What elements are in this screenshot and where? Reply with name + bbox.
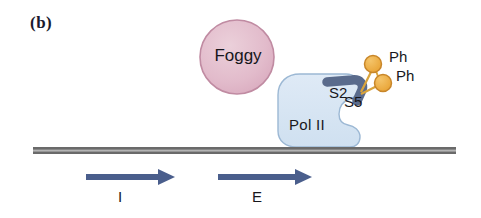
phosphate-label-upper: Ph [389,48,407,65]
elongation-arrow [218,169,312,185]
initiation-arrow [86,169,175,185]
diagram-canvas [0,0,481,218]
phosphate-circle-s5 [375,75,392,92]
foggy-label: Foggy [207,46,269,66]
elongation-arrow-head [295,169,312,185]
phosphate-label-lower: Ph [396,67,414,84]
initiation-arrow-head [158,169,175,185]
pol-ii-label: Pol II [289,116,325,133]
elongation-arrow-label: E [252,188,262,205]
panel-label: (b) [30,13,52,33]
initiation-arrow-label: I [118,188,122,205]
serine-5-label: S5 [344,93,362,110]
phosphate-circle-s2 [365,56,382,73]
figure-panel-b: (b) Foggy Pol II S2 S5 Ph Ph I E [0,0,481,218]
dna-strand-inner [33,150,456,152]
